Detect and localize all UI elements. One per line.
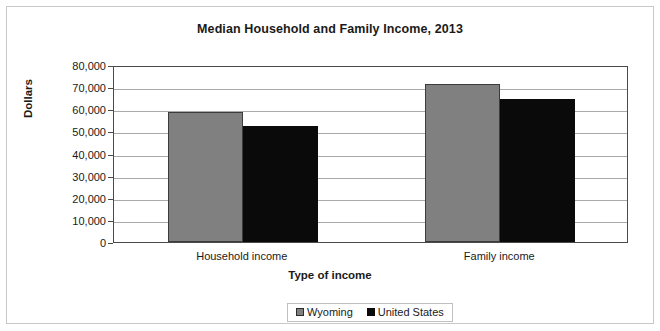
y-tick-mark xyxy=(108,110,113,111)
y-tick-mark xyxy=(108,88,113,89)
y-axis-tick-labels: 80,00070,00060,00050,00040,00030,00020,0… xyxy=(44,66,106,243)
legend-swatch-icon xyxy=(367,308,375,316)
y-tick-label: 0 xyxy=(44,237,106,249)
legend-item-wyoming[interactable]: Wyoming xyxy=(296,306,353,318)
legend-label: United States xyxy=(378,306,444,318)
legend-swatch-icon xyxy=(296,308,304,316)
y-tick-label: 40,000 xyxy=(44,149,106,161)
y-axis-title: Dollars xyxy=(22,79,34,118)
bar-united-states-household-income xyxy=(243,126,318,242)
bars-layer xyxy=(114,67,627,242)
y-tick-mark xyxy=(108,243,113,244)
legend-label: Wyoming xyxy=(307,306,353,318)
y-tick-mark xyxy=(108,132,113,133)
y-tick-mark xyxy=(108,177,113,178)
y-tick-label: 50,000 xyxy=(44,126,106,138)
plot-area xyxy=(113,66,628,243)
y-tick-mark xyxy=(108,221,113,222)
y-tick-mark xyxy=(108,199,113,200)
y-tick-label: 80,000 xyxy=(44,60,106,72)
y-tick-label: 70,000 xyxy=(44,82,106,94)
y-tick-mark xyxy=(108,66,113,67)
y-tick-label: 20,000 xyxy=(44,193,106,205)
chart-figure: Median Household and Family Income, 2013… xyxy=(0,0,660,331)
y-tick-mark xyxy=(108,155,113,156)
y-tick-label: 60,000 xyxy=(44,104,106,116)
chart-title: Median Household and Family Income, 2013 xyxy=(0,22,660,36)
legend-item-united-states[interactable]: United States xyxy=(367,306,444,318)
y-tick-label: 10,000 xyxy=(44,215,106,227)
x-axis-title: Type of income xyxy=(0,269,660,281)
bar-united-states-family-income xyxy=(500,99,575,242)
bar-wyoming-family-income xyxy=(425,84,500,242)
x-category-label: Family income xyxy=(464,250,535,262)
x-category-label: Household income xyxy=(196,250,287,262)
bar-wyoming-household-income xyxy=(168,112,243,242)
y-tick-label: 30,000 xyxy=(44,171,106,183)
chart-legend: WyomingUnited States xyxy=(287,303,453,322)
